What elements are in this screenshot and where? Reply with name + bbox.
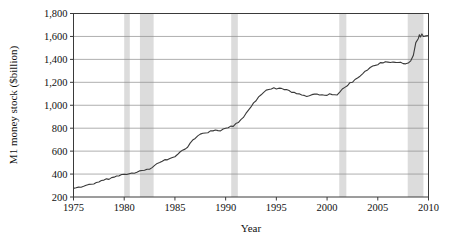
y-axis-tick-label: 1,200 [44, 77, 68, 88]
x-axis-tick-label: 2010 [418, 202, 439, 213]
x-axis-tick-label: 2000 [317, 202, 338, 213]
x-axis-tick-label: 1980 [114, 202, 135, 213]
chart-figure: 2004006008001,0001,2001,4001,6001,800 19… [0, 0, 450, 247]
x-axis-tick-label: 1985 [164, 202, 185, 213]
x-axis-tick-label: 1990 [215, 202, 236, 213]
y-axis-title: M1 money stock ($billion) [7, 46, 20, 165]
y-axis-tick-label: 200 [52, 192, 68, 203]
y-axis-tick-label: 1,800 [44, 8, 68, 19]
x-axis-title: Year [241, 222, 262, 234]
y-axis-tick-label: 1,400 [44, 54, 68, 65]
y-axis-tick-label: 600 [52, 146, 68, 157]
y-axis-tick-label: 1,600 [44, 31, 68, 42]
x-axis-tick-label: 2005 [367, 202, 388, 213]
x-axis-tick-label: 1995 [266, 202, 287, 213]
x-axis-tick-label: 1975 [63, 202, 84, 213]
y-axis-tick-label: 1,000 [44, 100, 68, 111]
y-axis-tick-label: 800 [52, 123, 68, 134]
m1-money-stock-line-chart: 2004006008001,0001,2001,4001,6001,800 19… [0, 0, 450, 247]
y-axis-tick-label: 400 [52, 169, 68, 180]
